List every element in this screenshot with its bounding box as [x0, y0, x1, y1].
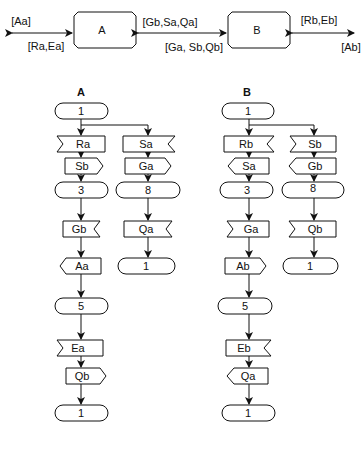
b-text-1-branch: 1: [307, 260, 313, 272]
a-text-ra: Ra: [76, 138, 91, 150]
b-text-ga: Ga: [244, 223, 260, 235]
a-text-8: 8: [145, 184, 151, 196]
b-text-gb: Gb: [308, 160, 323, 172]
b-text-5: 5: [242, 300, 248, 312]
a-text-ea: Ea: [71, 342, 85, 354]
diagram-a-title: A: [77, 86, 85, 98]
label-left-in: [Ra,Ea]: [28, 40, 65, 52]
b-text-sa: Sa: [242, 160, 256, 172]
a-text-qb: Qb: [75, 370, 90, 382]
b-text-1-end: 1: [245, 407, 251, 419]
a-text-1-end: 1: [78, 407, 84, 419]
b-text-3: 3: [244, 184, 250, 196]
sdl-diagram: A B [Aa] [Ra,Ea] [Gb,Sa,Qa] [Ga, Sb,Qb] …: [0, 0, 362, 472]
block-a-label: A: [98, 24, 106, 36]
b-text-8: 8: [310, 182, 316, 194]
a-text-5: 5: [78, 300, 84, 312]
a-text-ga: Ga: [139, 160, 155, 172]
b-text-qa: Qa: [241, 370, 257, 382]
b-text-sb: Sb: [308, 138, 321, 150]
b-text-rb: Rb: [239, 138, 253, 150]
label-mid-bottom: [Ga, Sb,Qb]: [165, 41, 223, 53]
diagram-b-title: B: [243, 86, 251, 98]
a-text-gb: Gb: [72, 223, 87, 235]
b-text-qb: Qb: [308, 223, 323, 235]
a-text-qa: Qa: [139, 223, 155, 235]
label-right-in: [Rb,Eb]: [301, 14, 338, 26]
b-text-ab: Ab: [236, 260, 249, 272]
a-text-1: 1: [78, 105, 84, 117]
a-text-aa: Aa: [75, 260, 89, 272]
a-text-sb: Sb: [75, 160, 88, 172]
b-text-eb: Eb: [237, 342, 250, 354]
block-b-label: B: [253, 24, 260, 36]
b-text-1: 1: [245, 105, 251, 117]
label-mid-top: [Gb,Sa,Qa]: [142, 16, 197, 28]
a-text-1-branch: 1: [143, 260, 149, 272]
label-right-out: [Ab]: [341, 41, 361, 53]
a-text-sa: Sa: [139, 138, 153, 150]
a-text-3: 3: [78, 184, 84, 196]
label-left-out: [Aa]: [11, 15, 31, 27]
